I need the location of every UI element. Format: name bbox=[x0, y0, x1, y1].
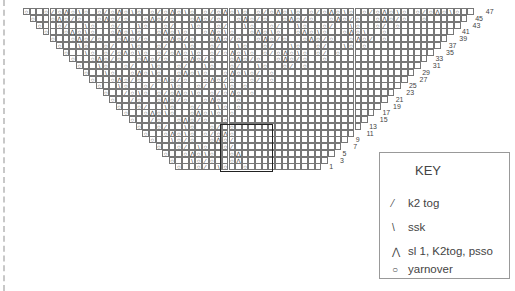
chart-cell: ○ bbox=[96, 82, 103, 89]
chart-cell bbox=[348, 130, 355, 137]
row-number: 23 bbox=[406, 89, 414, 96]
chart-cell: ○ bbox=[23, 8, 30, 15]
chart-cell: ○ bbox=[122, 109, 129, 116]
chart-cell bbox=[189, 163, 196, 170]
chart-cell bbox=[295, 163, 302, 170]
chart-cell bbox=[427, 49, 434, 56]
chart-cell bbox=[408, 69, 415, 76]
row-number: 15 bbox=[380, 116, 388, 123]
row-number: 19 bbox=[393, 103, 401, 110]
chart-cell bbox=[441, 35, 448, 42]
chart-cell bbox=[394, 82, 401, 89]
chart-cell bbox=[182, 163, 189, 170]
yarnover-icon: ○ bbox=[392, 264, 408, 275]
row-number: 39 bbox=[459, 35, 467, 42]
row-number: 11 bbox=[367, 130, 374, 137]
chart-cell: ○ bbox=[142, 130, 149, 137]
chart-cell bbox=[414, 62, 421, 69]
chart-cell: ○ bbox=[116, 103, 123, 110]
chart-cell bbox=[321, 157, 328, 164]
chart-cell bbox=[374, 103, 381, 110]
chart-cell bbox=[381, 96, 388, 103]
row-number: 47 bbox=[486, 8, 494, 15]
chart-cell: ○ bbox=[69, 55, 76, 62]
chart-cell bbox=[434, 42, 441, 49]
chart-cell bbox=[341, 136, 348, 143]
row-number: 7 bbox=[353, 143, 357, 150]
row-number: 35 bbox=[446, 49, 454, 56]
chart-cell: ⁄ bbox=[202, 163, 209, 170]
chart-cell bbox=[282, 163, 289, 170]
chart-cell: ○ bbox=[169, 157, 176, 164]
chart-cell bbox=[461, 15, 468, 22]
chart-cell bbox=[308, 163, 315, 170]
double-decrease-icon: ⋀ bbox=[392, 246, 408, 257]
chart-cell bbox=[328, 150, 335, 157]
key-legend: KEY ⁄k2 tog \ssk ⋀sl 1, K2tog, psso ○yar… bbox=[379, 152, 510, 279]
chart-cell: ○ bbox=[36, 22, 43, 29]
chart-cell: ○ bbox=[156, 143, 163, 150]
row-number: 43 bbox=[473, 22, 481, 29]
chart-cell bbox=[275, 163, 282, 170]
chart-cell bbox=[335, 143, 342, 150]
chart-cell: ○ bbox=[89, 76, 96, 83]
chart-cell: ○ bbox=[109, 96, 116, 103]
key-item-double-decrease: ⋀sl 1, K2tog, psso bbox=[392, 245, 493, 257]
chart-cell bbox=[315, 163, 322, 170]
row-number: 27 bbox=[420, 76, 428, 83]
key-title: KEY bbox=[415, 163, 441, 178]
chart-cell: ○ bbox=[56, 42, 63, 49]
chart-cell bbox=[288, 163, 295, 170]
chart-cell: ○ bbox=[43, 28, 50, 35]
ssk-icon: \ bbox=[392, 222, 408, 233]
chart-cell: ○ bbox=[136, 123, 143, 130]
chart-cell bbox=[447, 28, 454, 35]
chart-cell: ○ bbox=[195, 163, 202, 170]
chart-cell bbox=[355, 123, 362, 130]
pattern-repeat-box bbox=[220, 124, 273, 172]
key-item-yarnover: ○yarnover bbox=[392, 263, 453, 275]
chart-cell: ○ bbox=[175, 163, 182, 170]
row-number: 1 bbox=[329, 163, 333, 170]
chart-cell: ○ bbox=[63, 49, 70, 56]
chart-cell bbox=[467, 8, 474, 15]
chart-cell bbox=[361, 116, 368, 123]
chart-cell bbox=[388, 89, 395, 96]
chart-cell: ○ bbox=[162, 150, 169, 157]
chart-cell bbox=[401, 76, 408, 83]
chart-cell bbox=[454, 22, 461, 29]
chart-cell bbox=[421, 55, 428, 62]
key-item-ssk: \ssk bbox=[392, 221, 425, 233]
chart-cell: ○ bbox=[30, 15, 37, 22]
chart-cell bbox=[301, 163, 308, 170]
chart-cell: ○ bbox=[129, 116, 136, 123]
row-number: 31 bbox=[433, 62, 441, 69]
chart-cell: ○ bbox=[50, 35, 57, 42]
k2tog-icon: ⁄ bbox=[392, 198, 408, 209]
row-number: 3 bbox=[340, 157, 344, 164]
chart-cell: ○ bbox=[149, 136, 156, 143]
chart-cell bbox=[209, 163, 216, 170]
chart-cell: ○ bbox=[103, 89, 110, 96]
chart-cell bbox=[368, 109, 375, 116]
chart-cell: ○ bbox=[83, 69, 90, 76]
key-item-k2tog: ⁄k2 tog bbox=[392, 197, 439, 209]
chart-cell: ○ bbox=[76, 62, 83, 69]
